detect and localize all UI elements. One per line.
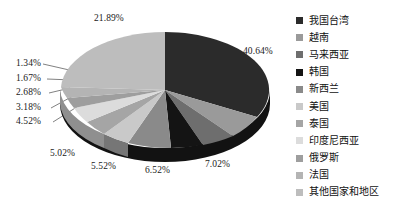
legend-item-taiwan[interactable]: 我国台湾 bbox=[296, 12, 413, 29]
legend-label: 美国 bbox=[309, 102, 329, 112]
pie-slice-others bbox=[61, 32, 165, 90]
data-label-taiwan: 40.64% bbox=[243, 47, 273, 57]
legend-item-usa[interactable]: 美国 bbox=[296, 98, 413, 115]
pie-svg bbox=[0, 0, 278, 209]
data-label-indonesia: 2.68% bbox=[16, 88, 41, 98]
data-label-russia: 1.67% bbox=[16, 74, 41, 84]
legend-swatch-icon bbox=[296, 172, 303, 179]
legend-swatch-icon bbox=[296, 86, 303, 93]
legend-swatch-icon bbox=[296, 17, 303, 24]
legend-item-vietnam[interactable]: 越南 bbox=[296, 29, 413, 46]
legend-item-korea[interactable]: 韩国 bbox=[296, 64, 413, 81]
legend-label: 韩国 bbox=[309, 67, 329, 77]
legend-swatch-icon bbox=[296, 155, 303, 162]
chart-legend: 我国台湾 越南 马来西亚 韩国 新西兰 美国 泰国 印度尼西亚 bbox=[296, 12, 413, 201]
legend-label: 新西兰 bbox=[309, 84, 339, 94]
legend-item-russia[interactable]: 俄罗斯 bbox=[296, 150, 413, 167]
legend-label: 泰国 bbox=[309, 119, 329, 129]
legend-swatch-icon bbox=[296, 137, 303, 144]
data-label-korea: 5.52% bbox=[91, 162, 116, 172]
legend-swatch-icon bbox=[296, 69, 303, 76]
legend-label: 俄罗斯 bbox=[309, 153, 339, 163]
data-label-vietnam: 7.02% bbox=[205, 160, 230, 170]
pie-plot-area: 40.64% 7.02% 6.52% 5.52% 5.02% 4.52% 3.1… bbox=[0, 0, 278, 209]
data-label-others: 21.89% bbox=[94, 14, 124, 24]
pie-chart-figure: 40.64% 7.02% 6.52% 5.52% 5.02% 4.52% 3.1… bbox=[0, 0, 413, 209]
data-label-thailand: 3.18% bbox=[16, 103, 41, 113]
legend-swatch-icon bbox=[296, 189, 303, 196]
legend-item-malaysia[interactable]: 马来西亚 bbox=[296, 46, 413, 63]
legend-label: 法国 bbox=[309, 170, 329, 180]
legend-swatch-icon bbox=[296, 120, 303, 127]
legend-swatch-icon bbox=[296, 103, 303, 110]
legend-item-france[interactable]: 法国 bbox=[296, 167, 413, 184]
legend-label: 我国台湾 bbox=[309, 16, 349, 26]
data-label-malaysia: 6.52% bbox=[145, 166, 170, 176]
legend-item-indonesia[interactable]: 印度尼西亚 bbox=[296, 132, 413, 149]
legend-item-thailand[interactable]: 泰国 bbox=[296, 115, 413, 132]
data-label-france: 1.34% bbox=[16, 59, 41, 69]
legend-label: 其他国家和地区 bbox=[309, 187, 379, 197]
legend-label: 印度尼西亚 bbox=[309, 136, 359, 146]
legend-swatch-icon bbox=[296, 51, 303, 58]
data-label-newzealand: 5.02% bbox=[50, 149, 75, 159]
legend-item-others[interactable]: 其他国家和地区 bbox=[296, 184, 413, 201]
data-label-usa: 4.52% bbox=[16, 117, 41, 127]
legend-swatch-icon bbox=[296, 34, 303, 41]
legend-label: 马来西亚 bbox=[309, 50, 349, 60]
legend-label: 越南 bbox=[309, 33, 329, 43]
legend-item-newzealand[interactable]: 新西兰 bbox=[296, 81, 413, 98]
